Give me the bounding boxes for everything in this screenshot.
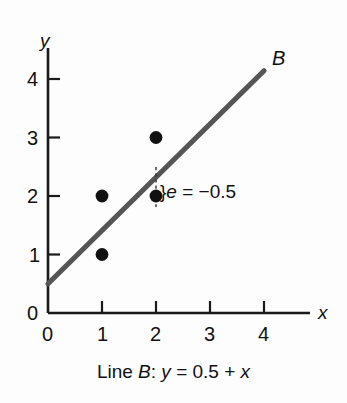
x-axis-label: x (318, 303, 328, 322)
figure-caption: Line B: y = 0.5 + x (0, 362, 347, 381)
x-tick-label-2: 2 (150, 324, 161, 344)
regression-line-b (48, 71, 264, 284)
y-tick-label-2: 2 (27, 186, 38, 206)
y-tick-label-3: 3 (27, 128, 38, 148)
y-tick-label-0: 0 (27, 303, 38, 323)
y-axis-label: y (40, 31, 50, 50)
x-tick-label-3: 3 (204, 324, 215, 344)
caption-equation: = 0.5 + (171, 361, 241, 382)
residual-symbol: e (166, 181, 177, 202)
line-b-label: B (272, 48, 285, 68)
caption-prefix: Line (97, 361, 138, 382)
caption-x-symbol: x (241, 361, 251, 382)
x-tick-label-4: 4 (258, 324, 269, 344)
y-axis-ticks (48, 79, 60, 255)
x-tick-label-1: 1 (97, 324, 108, 344)
scatter-plot-figure: 0 1 2 3 4 0 1 2 3 4 y x B }e = −0.5 Line… (0, 0, 347, 403)
caption-line-name: B (138, 361, 151, 382)
data-point (96, 248, 109, 261)
y-tick-label-1: 1 (29, 245, 40, 265)
caption-y-symbol: y (161, 361, 171, 382)
caption-colon: : (151, 361, 162, 382)
residual-value: −0.5 (199, 181, 237, 202)
residual-equals: = (177, 181, 199, 202)
data-point (150, 131, 163, 144)
data-point (96, 190, 109, 203)
residual-annotation: }e = −0.5 (160, 182, 236, 201)
x-tick-label-0: 0 (42, 324, 53, 344)
y-tick-label-4: 4 (27, 69, 38, 89)
data-points (96, 131, 163, 261)
x-axis-ticks (102, 301, 264, 313)
